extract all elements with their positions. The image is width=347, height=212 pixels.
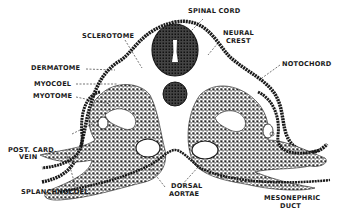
left-post-card-vein [98, 117, 108, 129]
left-dorsal-aorta [136, 139, 160, 157]
label-dorsal-aortae-line2: AORTAE [169, 191, 199, 198]
label-neural-crest-line1: NEURAL [223, 30, 254, 37]
notochord [163, 82, 187, 106]
label-dermatome: DERMATOME [31, 65, 80, 72]
label-notochord: NOTOCHORD [282, 61, 332, 68]
label-splanchnocoel: SPLANCHNOCOEL [21, 189, 89, 196]
label-post-card-vein-line2: VEIN [19, 154, 37, 161]
leader-neural-crest [208, 43, 218, 55]
leader-notochord [262, 65, 280, 78]
label-dorsal-aortae-line1: DORSAL [171, 183, 202, 190]
label-mesonephric-duct-line1: MESONEPHRIC [264, 195, 320, 202]
label-sclerotome: SCLEROTOME [82, 33, 134, 40]
label-myocoel: MYOCOEL [34, 81, 71, 88]
label-neural-crest-line2: CREST [226, 38, 251, 45]
label-spinal-cord: SPINAL CORD [188, 8, 240, 15]
label-mesonephric-duct-line2: DUCT [280, 203, 301, 210]
right-somite-mesoderm [188, 86, 326, 190]
right-dorsal-aorta [192, 141, 218, 159]
embryo-cross-section-diagram [0, 0, 347, 212]
label-myotome: MYOTOME [33, 93, 72, 100]
